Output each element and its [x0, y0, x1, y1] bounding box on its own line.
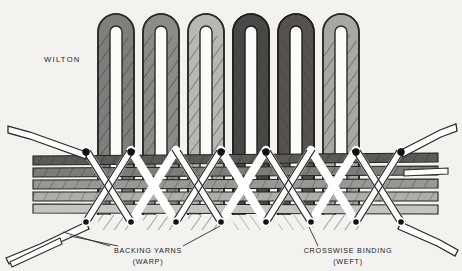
binding-node	[262, 218, 269, 225]
binding-node	[263, 149, 270, 156]
binding-node	[397, 218, 404, 225]
binding-node	[172, 218, 179, 225]
binding-node	[127, 218, 134, 225]
annotation-crosswise-binding-line1: CROSSWISE BINDING	[304, 246, 393, 255]
binding-node	[353, 149, 360, 156]
figure-title: WILTON	[44, 55, 81, 64]
binding-node	[82, 218, 89, 225]
annotation-backing-yarns-line1: BACKING YARNS	[114, 246, 182, 255]
binding-node	[307, 218, 314, 225]
annotation-crosswise-binding-line2: (WEFT)	[333, 257, 363, 266]
binding-node	[398, 149, 405, 156]
annotation-backing-yarns-line2: (WARP)	[133, 257, 164, 266]
binding-node	[352, 218, 359, 225]
wilton-weave-diagram: WILTON BACKING YARNS (WARP) CROSSWISE BI…	[0, 0, 462, 271]
binding-node	[217, 218, 224, 225]
binding-node	[83, 149, 90, 156]
protruding-end	[404, 168, 448, 176]
binding-node	[128, 149, 135, 156]
diagram-canvas: WILTON BACKING YARNS (WARP) CROSSWISE BI…	[0, 0, 462, 271]
binding-node	[218, 149, 225, 156]
